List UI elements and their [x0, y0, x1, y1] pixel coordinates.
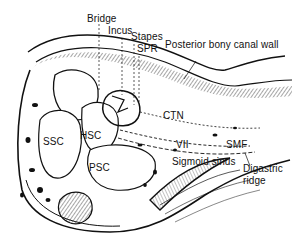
- label-spr: SPR: [137, 43, 158, 54]
- label-ssc: SSC: [43, 136, 64, 147]
- lower-mastoid-tip-cell: [58, 192, 92, 224]
- label-sigmoid-sinus: Sigmoid sinus: [172, 156, 236, 167]
- label-incus: Incus: [108, 25, 132, 36]
- label-digastric-line2: ridge: [243, 175, 266, 186]
- label-hsc: HSC: [80, 130, 101, 141]
- chorda-tympani-line: [140, 112, 260, 128]
- temporal-bone-diagram: Bridge Incus Stapes SPR Posterior bony c…: [0, 0, 298, 247]
- label-posterior-bony-canal-wall: Posterior bony canal wall: [165, 39, 279, 50]
- label-digastric-line1: Digastric: [243, 163, 283, 174]
- label-psc: PSC: [89, 162, 110, 173]
- label-bridge: Bridge: [87, 13, 117, 24]
- canal-wall-leader: [184, 61, 196, 79]
- label-ctn: CTN: [163, 110, 184, 121]
- label-smf: SMF: [226, 139, 247, 150]
- label-stapes: Stapes: [131, 31, 163, 42]
- label-vii: VII: [176, 139, 189, 150]
